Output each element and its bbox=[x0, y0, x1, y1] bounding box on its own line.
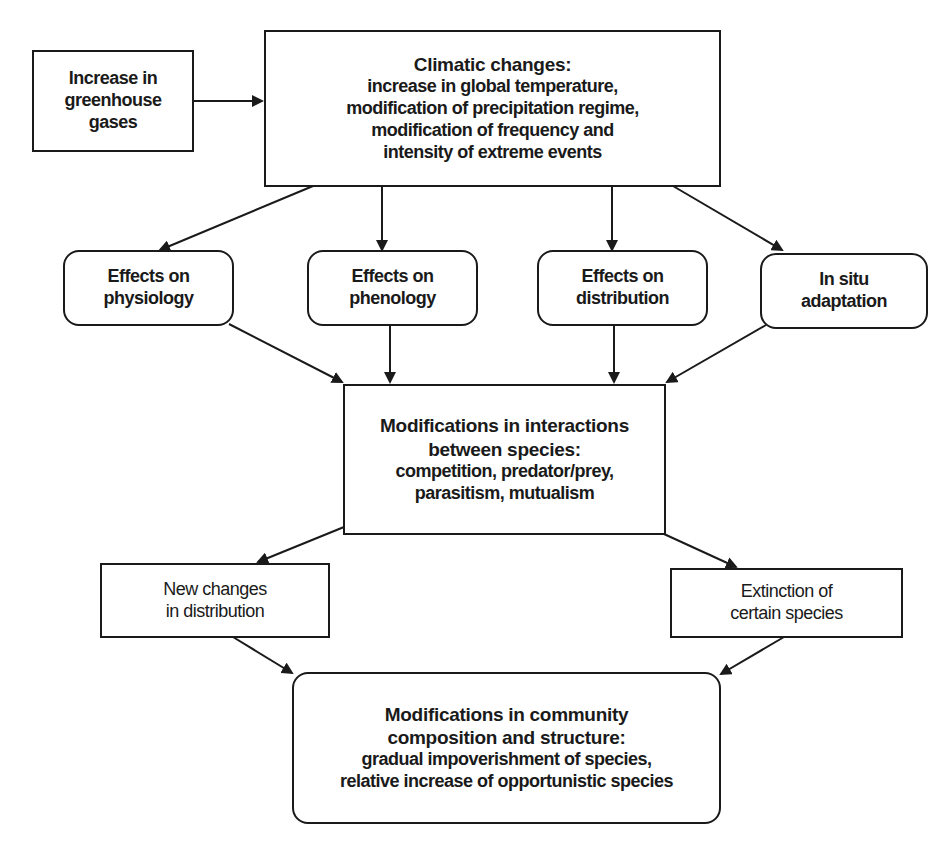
node-species-interactions: Modifications in interactions between sp… bbox=[343, 384, 666, 535]
arrow-interactions-to-new-changes bbox=[258, 527, 344, 562]
node-text: greenhouse bbox=[64, 90, 161, 112]
node-text: modification of precipitation regime, bbox=[346, 98, 639, 120]
node-text: gases bbox=[89, 112, 138, 134]
node-text: intensity of extreme events bbox=[383, 142, 602, 164]
node-title: Modifications in community bbox=[385, 703, 628, 726]
node-greenhouse-gases: Increase in greenhouse gases bbox=[32, 50, 194, 152]
node-text: Increase in bbox=[69, 68, 158, 90]
node-text: phenology bbox=[349, 288, 436, 310]
node-text: adaptation bbox=[801, 291, 887, 313]
node-text: In situ bbox=[819, 269, 869, 291]
node-text: parasitism, mutualism bbox=[415, 483, 595, 505]
arrow-extinction-to-community bbox=[721, 637, 784, 674]
node-text: certain species bbox=[730, 603, 843, 625]
node-text: competition, predator/prey, bbox=[395, 461, 613, 483]
node-text: in distribution bbox=[166, 601, 265, 623]
node-text: Effects on bbox=[581, 266, 663, 288]
node-text: modification of frequency and bbox=[371, 120, 614, 142]
node-title: Climatic changes: bbox=[414, 53, 572, 76]
node-text: New changes bbox=[163, 579, 267, 601]
node-title: Modifications in interactions bbox=[380, 414, 629, 437]
node-new-changes-distribution: New changes in distribution bbox=[100, 563, 330, 638]
node-community-composition: Modifications in community composition a… bbox=[292, 672, 721, 824]
node-text: Effects on bbox=[351, 266, 433, 288]
node-text: physiology bbox=[103, 288, 193, 310]
arrow-adaptation-to-interactions bbox=[667, 325, 766, 382]
node-climatic-changes: Climatic changes: increase in global tem… bbox=[264, 30, 721, 187]
node-text: gradual impoverishment of species, bbox=[361, 749, 651, 771]
node-title: composition and structure: bbox=[387, 726, 625, 749]
arrow-climatic-to-physiology bbox=[160, 186, 313, 250]
node-extinction-species: Extinction of certain species bbox=[670, 568, 903, 638]
node-text: relative increase of opportunistic speci… bbox=[340, 771, 673, 793]
node-effects-phenology: Effects on phenology bbox=[307, 250, 478, 326]
node-effects-physiology: Effects on physiology bbox=[63, 250, 234, 326]
node-text: increase in global temperature, bbox=[367, 76, 618, 98]
node-in-situ-adaptation: In situ adaptation bbox=[760, 253, 928, 329]
node-text: Extinction of bbox=[741, 581, 833, 603]
node-text: Effects on bbox=[107, 266, 189, 288]
arrow-new-changes-to-community bbox=[233, 637, 292, 673]
node-effects-distribution: Effects on distribution bbox=[537, 250, 708, 326]
node-title: between species: bbox=[428, 438, 581, 461]
node-text: distribution bbox=[576, 288, 669, 310]
arrow-climatic-to-adaptation bbox=[673, 186, 782, 250]
arrow-interactions-to-extinction bbox=[664, 534, 736, 567]
arrow-physiology-to-interactions bbox=[229, 324, 342, 382]
